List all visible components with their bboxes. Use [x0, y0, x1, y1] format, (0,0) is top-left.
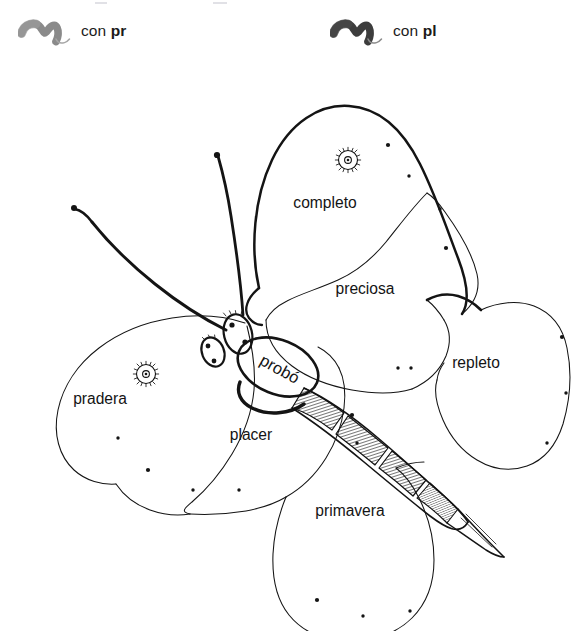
- wing-dot: [355, 441, 358, 444]
- crop-artifact-right: [213, 2, 227, 4]
- legend-item-pl: con pl: [330, 14, 437, 48]
- wing-label-pradera: pradera: [73, 390, 127, 407]
- wing-label-completo: completo: [293, 194, 357, 211]
- brush-stroke-gray-icon: [18, 16, 74, 46]
- wing-dot: [396, 366, 399, 369]
- wing-label-preciosa: preciosa: [336, 280, 395, 297]
- wing-label-primavera: primavera: [315, 502, 385, 519]
- legend-cluster-pl: pl: [423, 22, 437, 39]
- wing-speckles: [116, 143, 567, 618]
- wing-dot: [237, 488, 240, 491]
- legend-prefix-pl: con: [393, 22, 423, 39]
- wing-dot: [146, 468, 150, 472]
- wing-dot: [350, 413, 354, 417]
- eyespot-upper: [335, 147, 360, 172]
- eyespot-lower: [133, 361, 158, 386]
- legend: con pr con pl: [0, 12, 579, 54]
- wing-dot: [409, 366, 412, 369]
- wing-label-placer: placer: [230, 426, 272, 443]
- legend-label-pl: con pl: [393, 22, 437, 40]
- legend-item-pr: con pr: [18, 14, 126, 48]
- wing-dot: [191, 488, 194, 491]
- wing-dot: [560, 335, 564, 339]
- wing-dot: [315, 598, 319, 602]
- wing-dot: [545, 441, 548, 444]
- wing-dot: [564, 391, 567, 394]
- wing-dot: [361, 614, 364, 617]
- wing-dot: [444, 246, 448, 250]
- wing-dot: [116, 436, 119, 439]
- wing-dot: [438, 207, 441, 210]
- body-label-probo: probó: [257, 351, 303, 387]
- brush-stroke-dark-icon: [330, 16, 386, 46]
- wing-dot: [407, 174, 410, 177]
- legend-cluster-pr: pr: [111, 22, 127, 39]
- wing-label-repleto: repleto: [452, 354, 500, 371]
- legend-prefix-pr: con: [81, 22, 111, 39]
- crop-artifact-left: [95, 2, 107, 4]
- butterfly-illustration: completo preciosa repleto pradera placer…: [0, 52, 579, 631]
- wing-dot: [408, 609, 411, 612]
- legend-label-pr: con pr: [81, 22, 126, 40]
- wing-dot: [386, 143, 390, 147]
- worksheet-page: con pr con pl: [0, 0, 579, 631]
